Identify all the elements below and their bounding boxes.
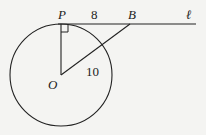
label-line-l: ℓ: [186, 7, 192, 22]
label-o: O: [48, 77, 58, 92]
label-pb-length: 8: [91, 7, 98, 22]
geometry-diagram: P 8 B ℓ O 10: [0, 0, 206, 135]
label-ob-length: 10: [86, 64, 99, 79]
label-b: B: [128, 7, 136, 22]
label-p: P: [57, 7, 66, 22]
right-angle-marker: [61, 24, 68, 32]
